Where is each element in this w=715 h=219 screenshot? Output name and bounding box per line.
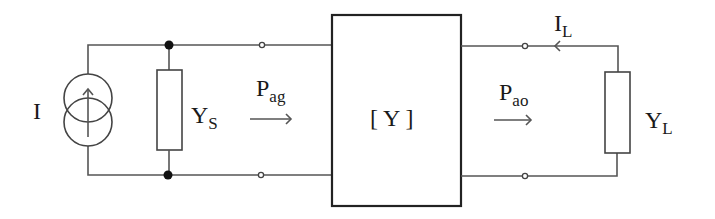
input-terminal-bottom	[258, 172, 263, 177]
source-current-symbol: I	[33, 98, 41, 124]
load-admittance-symbol: Y	[645, 107, 662, 133]
two-port-label: [ Y ]	[370, 106, 414, 130]
output-power-label: Pao	[499, 80, 528, 104]
load-admittance-label: YL	[645, 108, 673, 132]
output-terminal-top	[522, 43, 527, 48]
circuit-diagram	[0, 0, 715, 219]
junction-dot-bottom	[164, 171, 173, 180]
generator-power-symbol: P	[256, 75, 269, 101]
generator-power-subscript: ag	[269, 87, 285, 106]
load-loop-wires	[461, 46, 618, 176]
load-current-subscript: L	[562, 22, 572, 41]
output-power-symbol: P	[499, 79, 512, 105]
junction-dot-top	[165, 41, 174, 50]
current-source-icon	[64, 74, 112, 146]
source-admittance-label: YS	[191, 103, 218, 127]
load-admittance-subscript: L	[662, 119, 672, 138]
power-arrow-output-icon	[494, 115, 531, 125]
input-terminal-top	[259, 42, 264, 47]
output-power-subscript: ao	[512, 91, 528, 110]
output-terminal-bottom	[522, 173, 527, 178]
two-port-matrix-symbol: [ Y ]	[370, 105, 414, 131]
generator-power-label: Pag	[256, 76, 285, 100]
load-current-symbol: I	[554, 10, 562, 36]
source-admittance-subscript: S	[208, 114, 217, 133]
source-admittance-symbol: Y	[191, 102, 208, 128]
source-current-label: I	[33, 99, 41, 123]
power-arrow-generator-icon	[250, 114, 291, 124]
load-current-label: IL	[554, 11, 572, 35]
source-admittance-resistor-icon	[157, 45, 182, 175]
load-admittance-resistor-icon	[605, 72, 630, 153]
